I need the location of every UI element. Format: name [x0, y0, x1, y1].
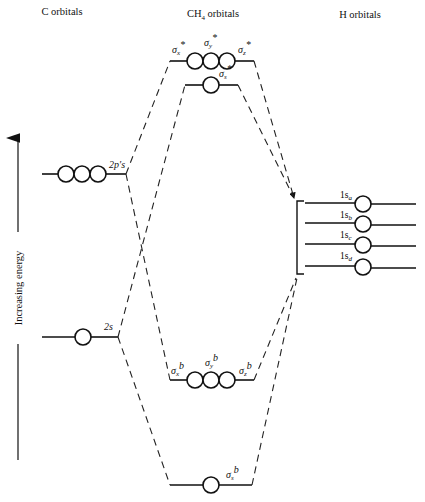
c-2s-level: 2s [42, 321, 118, 345]
h-1s-levels: 1sa 1sb 1sc 1sd [297, 190, 416, 275]
sigma-x-star-label: σx* [172, 39, 185, 57]
h-1s-b-label: 1sb [340, 210, 352, 222]
h-level-a: 1sa [305, 190, 416, 212]
orbital-circle-icon [187, 53, 203, 69]
sigma-z-b-label: σzb [239, 360, 252, 378]
orbital-circle-icon [203, 372, 219, 388]
c-2p-label: 2p′s [109, 159, 125, 170]
orbital-circle-icon [355, 237, 371, 253]
orbital-circle-icon [90, 166, 106, 182]
h-bracket [297, 201, 304, 274]
c-2s-label: 2s [104, 321, 113, 332]
c-2p-level: 2p′s [42, 159, 126, 182]
orbital-circle-icon [219, 372, 235, 388]
sigma-y-b-label: σyb [205, 352, 218, 370]
orbital-circle-icon [203, 53, 219, 69]
h-1s-c-label: 1sc [340, 230, 352, 242]
orbital-circle-icon [355, 196, 371, 212]
orbital-circle-icon [203, 77, 219, 93]
sigma-x-b-label: σxb [171, 360, 184, 378]
energy-axis-label: Increasing energy [13, 250, 24, 325]
header-ch4-orbitals: CH4 orbitals [187, 8, 239, 22]
correlation-lines [118, 61, 297, 485]
orbital-circle-icon [74, 166, 90, 182]
ch4-bonding-s-level: σsb [170, 464, 252, 493]
orbital-circle-icon [355, 216, 371, 232]
header-h-orbitals: H orbitals [339, 9, 381, 20]
orbital-circle-icon [58, 166, 74, 182]
ch4-antibonding-p-level: σx* σy* σz* [170, 32, 254, 69]
orbital-circle-icon [187, 372, 203, 388]
h-level-c: 1sc [305, 230, 416, 253]
orbital-circle-icon [75, 329, 91, 345]
sigma-y-star-label: σy* [204, 32, 217, 50]
header-c-orbitals: C orbitals [41, 6, 82, 17]
h-1s-a-label: 1sa [340, 190, 352, 202]
sigma-s-b-label: σsb [226, 464, 239, 482]
orbital-circle-icon [203, 477, 219, 493]
ch4-bonding-p-level: σxb σyb σzb [170, 352, 254, 388]
sigma-z-star-label: σz* [238, 39, 251, 57]
orbital-circle-icon [355, 259, 371, 275]
energy-axis: Increasing energy [12, 138, 24, 460]
mo-diagram: C orbitals CH4 orbitals H orbitals Incre… [0, 0, 425, 502]
h-1s-d-label: 1sd [340, 251, 352, 263]
h-level-b: 1sb [305, 210, 416, 232]
h-level-d: 1sd [305, 251, 416, 275]
